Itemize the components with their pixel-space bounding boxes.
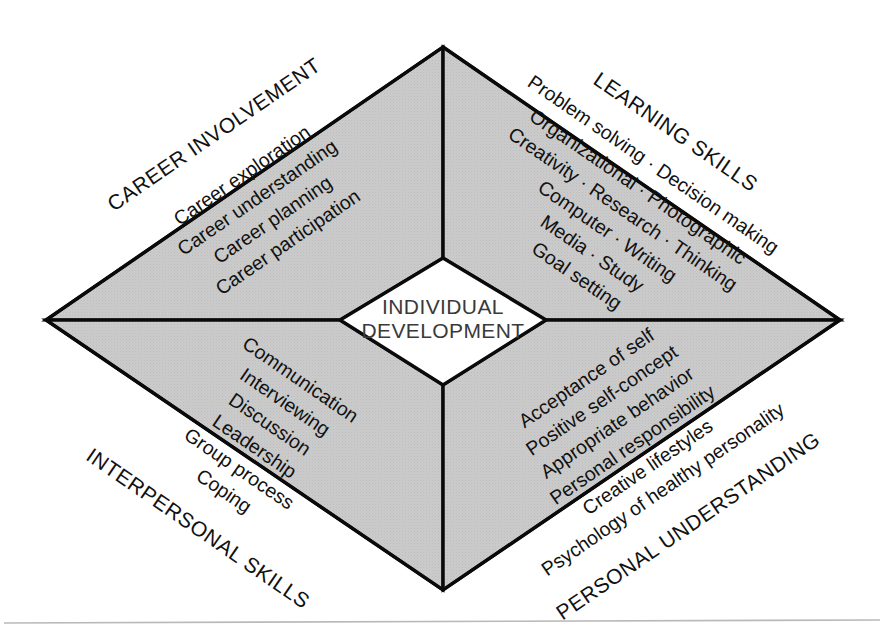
individual-development-diamond: INDIVIDUAL DEVELOPMENT CAREER INVOLVEMEN… xyxy=(0,0,884,634)
center-label-line2: DEVELOPMENT xyxy=(361,319,524,342)
page-baseline-rule xyxy=(4,620,880,623)
center-label-line1: INDIVIDUAL xyxy=(382,295,504,318)
diagram-canvas: INDIVIDUAL DEVELOPMENT CAREER INVOLVEMEN… xyxy=(0,0,884,634)
